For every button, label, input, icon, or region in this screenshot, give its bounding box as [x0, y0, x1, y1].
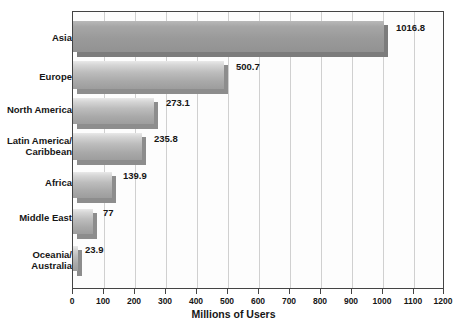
plot-area	[72, 11, 444, 289]
bar-africa	[73, 172, 116, 203]
bar-bottom-oceania	[77, 271, 82, 276]
bar-oceania-australia	[73, 246, 82, 276]
bar-face-latin-america	[73, 133, 142, 160]
tick-mark-600	[258, 289, 259, 294]
value-label-latin-america-caribbean: 235.8	[154, 134, 178, 144]
tick-mark-1000	[382, 289, 383, 294]
category-label-africa: Africa	[2, 177, 72, 188]
tick-mark-800	[320, 289, 321, 294]
value-label-asia: 1016.8	[396, 23, 425, 33]
tick-label-800: 800	[313, 296, 327, 306]
bar-bottom-asia	[77, 52, 388, 57]
bar-europe	[73, 61, 228, 94]
category-label-latin-america-caribbean: Latin America/ Caribbean	[2, 135, 72, 157]
category-label-oceania-australia: Oceania/ Australia	[2, 249, 72, 271]
tick-mark-1100	[413, 289, 414, 294]
tick-label-0: 0	[70, 296, 75, 306]
tick-label-500: 500	[220, 296, 234, 306]
tick-mark-1200	[443, 289, 444, 294]
bar-bottom-europe	[77, 89, 228, 94]
bar-face-middle-east	[73, 209, 93, 234]
tick-label-100: 100	[96, 296, 110, 306]
category-label-europe: Europe	[2, 71, 72, 82]
bar-face-africa	[73, 172, 112, 198]
value-label-europe: 500.7	[236, 62, 260, 72]
tick-label-1200: 1200	[434, 296, 453, 306]
bar-bottom-north-america	[77, 124, 158, 129]
bar-chart: Asia Europe North America Latin America/…	[0, 0, 453, 330]
bar-face-asia	[73, 21, 384, 52]
value-label-africa: 139.9	[123, 171, 147, 181]
tick-label-1100: 1100	[404, 296, 422, 306]
tick-mark-100	[103, 289, 104, 294]
tick-label-200: 200	[127, 296, 141, 306]
value-label-middle-east: 77	[103, 208, 114, 218]
tick-mark-500	[227, 289, 228, 294]
gridline-1100	[414, 12, 415, 288]
tick-mark-400	[196, 289, 197, 294]
tick-label-600: 600	[251, 296, 265, 306]
tick-label-900: 900	[344, 296, 358, 306]
tick-label-300: 300	[158, 296, 172, 306]
category-label-north-america: North America	[2, 104, 72, 115]
bar-bottom-africa	[77, 198, 116, 203]
bar-latin-america-caribbean	[73, 133, 146, 165]
tick-label-700: 700	[282, 296, 296, 306]
bar-middle-east	[73, 209, 97, 239]
bar-face-north-america	[73, 98, 154, 124]
tick-label-1000: 1000	[373, 296, 392, 306]
value-label-oceania-australia: 23.9	[85, 245, 104, 255]
x-axis-title: Millions of Users	[0, 308, 453, 320]
category-label-asia: Asia	[2, 32, 72, 43]
bar-bottom-latin-america	[77, 160, 146, 165]
bar-bottom-middle-east	[77, 234, 97, 239]
category-label-middle-east: Middle East	[2, 212, 72, 223]
tick-mark-0	[72, 289, 73, 294]
tick-mark-700	[289, 289, 290, 294]
tick-mark-300	[165, 289, 166, 294]
tick-label-400: 400	[189, 296, 203, 306]
bar-asia	[73, 21, 388, 57]
bar-face-europe	[73, 61, 224, 89]
tick-mark-900	[351, 289, 352, 294]
bar-north-america	[73, 98, 158, 129]
value-label-north-america: 273.1	[166, 98, 190, 108]
tick-mark-200	[134, 289, 135, 294]
